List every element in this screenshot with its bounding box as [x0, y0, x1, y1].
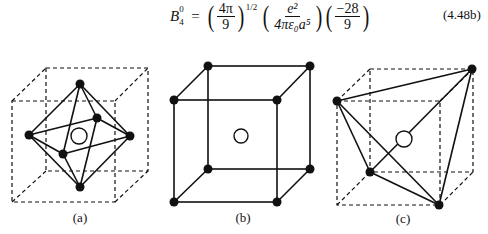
figure-c-label: (c) [396, 211, 410, 227]
coordination-figures [0, 0, 488, 234]
figure-b-central-ion [234, 129, 248, 143]
figure-a-label: (a) [73, 210, 87, 226]
figure-c-central-ion [396, 131, 412, 147]
figure-a-central-ion [71, 128, 87, 144]
figure-b-label: (b) [235, 210, 250, 226]
